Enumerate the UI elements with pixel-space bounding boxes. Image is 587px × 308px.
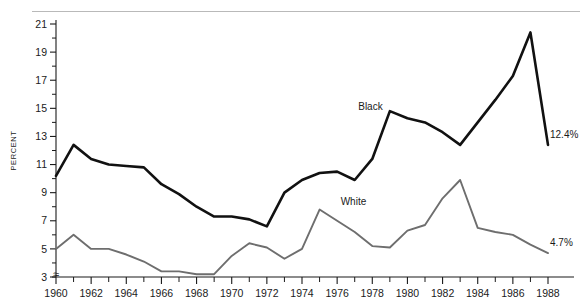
series-lines	[56, 32, 548, 274]
y-axis-title: PERCENT	[9, 130, 18, 170]
y-tick-label: 17	[35, 74, 47, 86]
series-line-white	[56, 180, 548, 274]
series-label-black: Black	[358, 101, 383, 112]
y-tick-label: 11	[36, 158, 47, 170]
y-axis: 3579111315171921PERCENT≈	[9, 18, 59, 283]
x-tick-label: 1982	[431, 287, 455, 299]
x-tick-label: 1974	[290, 287, 314, 299]
x-tick-label: 1960	[44, 287, 68, 299]
series-label-white: White	[341, 196, 367, 207]
y-tick-label: 13	[35, 130, 47, 142]
x-tick-label: 1986	[501, 287, 525, 299]
x-tick-label: 1966	[150, 287, 174, 299]
y-tick-label: 9	[41, 186, 47, 198]
x-tick-label: 1972	[255, 287, 279, 299]
y-tick-label: 7	[41, 214, 47, 226]
y-tick-label: 15	[35, 102, 47, 114]
x-tick-label: 1968	[185, 287, 209, 299]
x-tick-label: 1984	[466, 287, 490, 299]
x-tick-label: 1978	[361, 287, 385, 299]
x-tick-label: 1964	[115, 287, 139, 299]
x-tick-label: 1970	[220, 287, 244, 299]
y-tick-label: 21	[35, 18, 47, 30]
y-tick-label: 19	[35, 46, 47, 58]
x-tick-label: 1980	[396, 287, 420, 299]
end-label-black: 12.4%	[550, 129, 578, 140]
chart-annotations: BlackWhite12.4%4.7%	[341, 101, 579, 248]
x-axis: 1960196219641966196819701972197419761978…	[44, 277, 574, 299]
end-label-white: 4.7%	[550, 237, 573, 248]
x-tick-label: 1988	[536, 287, 560, 299]
unemployment-rate-line-chart: 3579111315171921PERCENT≈ 196019621964196…	[0, 0, 587, 308]
x-tick-label: 1962	[79, 287, 103, 299]
y-tick-label: 3	[41, 271, 47, 283]
series-line-black	[56, 32, 548, 226]
y-tick-label: 5	[41, 243, 47, 255]
chart-canvas: 3579111315171921PERCENT≈ 196019621964196…	[0, 0, 587, 308]
x-tick-label: 1976	[325, 287, 349, 299]
